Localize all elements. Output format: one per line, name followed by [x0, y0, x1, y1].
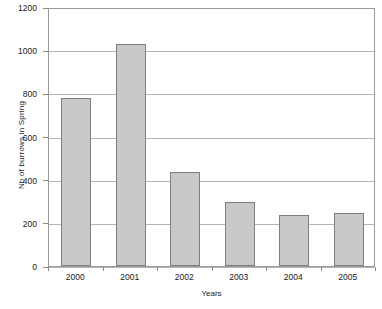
- bar: [170, 172, 200, 266]
- x-axis-tick-mark: [48, 267, 49, 271]
- x-axis-tick-mark: [212, 267, 213, 271]
- y-axis-tick-label: 1000: [18, 46, 37, 56]
- x-axis-tick-label: 2005: [338, 272, 357, 282]
- bar: [116, 44, 146, 266]
- bar: [225, 202, 255, 266]
- bar: [61, 98, 91, 266]
- x-axis-title: Years: [48, 289, 375, 298]
- x-axis-tick-label: 2002: [175, 272, 194, 282]
- bar-chart: Nb of burrows in Spring 0200400600800100…: [0, 0, 382, 309]
- x-axis-tick-mark: [375, 267, 376, 271]
- x-axis-tick-label: 2000: [66, 272, 85, 282]
- y-axis-tick-label: 200: [23, 219, 37, 229]
- bars-layer: [49, 9, 374, 266]
- y-axis-ticks: 020040060080010001200: [0, 0, 48, 309]
- y-axis-tick-label: 1200: [18, 3, 37, 13]
- x-axis-tick-labels: 200020012002200320042005: [48, 272, 375, 286]
- x-axis-tick-mark: [266, 267, 267, 271]
- y-axis-tick-label: 600: [23, 133, 37, 143]
- plot-area: [48, 8, 375, 267]
- bar: [334, 213, 364, 266]
- x-axis-tick-label: 2003: [229, 272, 248, 282]
- x-axis-tick-mark: [321, 267, 322, 271]
- x-axis-tick-label: 2004: [284, 272, 303, 282]
- bar: [279, 215, 309, 266]
- y-axis-tick-label: 800: [23, 89, 37, 99]
- x-axis-tick-label: 2001: [120, 272, 139, 282]
- x-axis-tick-mark: [103, 267, 104, 271]
- x-axis-tick-mark: [157, 267, 158, 271]
- y-axis-tick-label: 0: [32, 262, 37, 272]
- y-axis-tick-label: 400: [23, 176, 37, 186]
